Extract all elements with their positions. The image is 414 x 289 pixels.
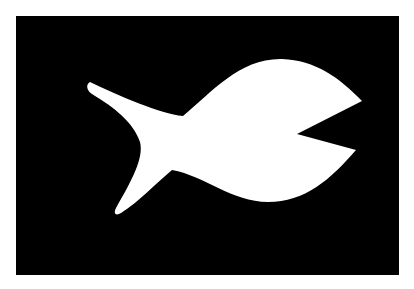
fish-silhouette: [87, 59, 362, 214]
fish-icon: [0, 0, 414, 289]
